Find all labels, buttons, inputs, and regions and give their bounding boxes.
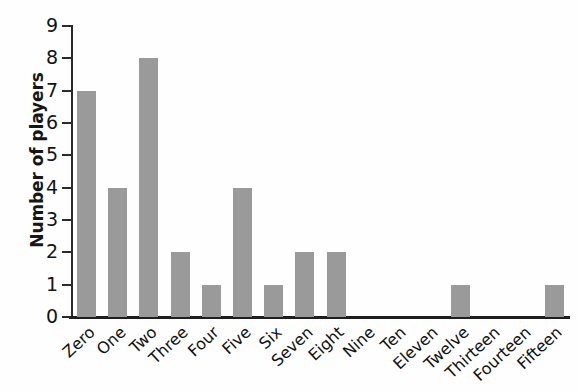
y-tick-mark <box>62 284 71 286</box>
y-tick-label: 8 <box>46 48 58 67</box>
y-tick-mark <box>62 25 71 27</box>
x-tick-label: Zero <box>60 324 98 361</box>
y-tick-mark <box>62 90 71 92</box>
y-axis-line <box>71 25 73 318</box>
y-tick-mark <box>62 187 71 189</box>
bar <box>327 252 346 317</box>
plot-area: 0123456789 ZeroOneTwoThreeFourFiveSixSev… <box>71 25 570 317</box>
bar <box>108 188 127 317</box>
bar <box>295 252 314 317</box>
bar <box>202 285 221 317</box>
y-tick-mark <box>62 154 71 156</box>
bar <box>233 188 252 317</box>
y-tick-label: 0 <box>46 307 58 326</box>
y-tick-label: 1 <box>46 274 58 293</box>
x-tick-label: Five <box>219 324 253 357</box>
y-tick-label: 9 <box>46 16 58 35</box>
y-tick-label: 3 <box>46 210 58 229</box>
bar <box>77 91 96 317</box>
bar <box>139 58 158 317</box>
bar <box>171 252 190 317</box>
y-tick-mark <box>62 122 71 124</box>
bar-chart: Number of players 0123456789 ZeroOneTwoT… <box>0 0 578 392</box>
x-tick-label: Four <box>186 324 223 360</box>
y-axis-title: Number of players <box>27 45 47 275</box>
bar <box>451 285 470 317</box>
x-tick-label: Nine <box>341 324 379 361</box>
bar <box>545 285 564 317</box>
y-tick-label: 5 <box>46 145 58 164</box>
x-tick-label: One <box>94 324 129 358</box>
bar <box>264 285 283 317</box>
y-tick-label: 2 <box>46 242 58 261</box>
y-tick-mark <box>62 251 71 253</box>
y-tick-mark <box>62 316 71 318</box>
y-tick-label: 4 <box>46 177 58 196</box>
y-tick-label: 6 <box>46 113 58 132</box>
y-tick-mark <box>62 57 71 59</box>
y-tick-label: 7 <box>46 80 58 99</box>
y-tick-mark <box>62 219 71 221</box>
